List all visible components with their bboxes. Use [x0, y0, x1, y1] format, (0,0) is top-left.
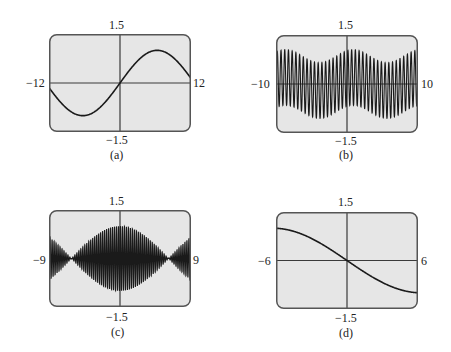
caption-c: (c) [111, 326, 124, 338]
caption-d: (d) [339, 327, 353, 339]
ymax-label-d: 1.5 [338, 196, 353, 208]
xmin-label-b: −10 [251, 78, 270, 90]
xmax-label-b: 10 [421, 78, 433, 90]
plot-d-canvas [276, 212, 418, 309]
xmax-label-d: 6 [421, 255, 427, 267]
xmax-label-a: 12 [193, 77, 205, 89]
ymax-label-c: 1.5 [109, 195, 124, 207]
plot-b [276, 35, 418, 133]
ymax-label-a: 1.5 [109, 19, 124, 31]
plot-c-canvas [49, 210, 191, 307]
xmin-label-d: −6 [258, 255, 271, 267]
xmin-label-a: −12 [26, 77, 45, 89]
plot-d [276, 212, 418, 309]
xmax-label-c: 9 [193, 254, 199, 266]
ymin-label-b: −1.5 [335, 135, 357, 147]
plot-b-canvas [276, 35, 418, 133]
ymin-label-d: −1.5 [335, 312, 357, 324]
caption-a: (a) [110, 149, 123, 161]
ymin-label-c: −1.5 [106, 311, 128, 323]
plot-a-canvas [49, 34, 191, 132]
plot-a [49, 34, 191, 132]
ymin-label-a: −1.5 [106, 134, 128, 146]
caption-b: (b) [339, 149, 353, 161]
xmin-label-c: −9 [33, 254, 46, 266]
ymax-label-b: 1.5 [338, 19, 353, 31]
plot-c [49, 210, 191, 307]
